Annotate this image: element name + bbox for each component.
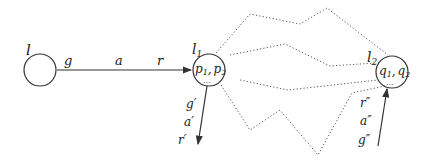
edge-l1-out bbox=[198, 86, 207, 144]
edge-label-a: a bbox=[115, 53, 123, 68]
edge-label-g-prime: g′ bbox=[186, 97, 197, 111]
node-l2-contents: q1,q2 bbox=[379, 64, 410, 79]
node-l-label: l bbox=[26, 41, 31, 59]
edge-in-l2 bbox=[378, 89, 387, 146]
diagram-canvas: l g a r l1 p1,p2 ... g′ a′ r′ l2 q1,q2 .… bbox=[0, 0, 432, 164]
node-l2-label: l2 bbox=[367, 49, 377, 67]
edge-label-a-prime: a′ bbox=[184, 115, 194, 129]
edge-label-r: r bbox=[157, 53, 164, 68]
node-l1-label: l1 bbox=[192, 41, 202, 59]
node-l1-ellipsis: ... bbox=[203, 76, 211, 85]
edge-label-g: g bbox=[64, 53, 72, 68]
edge-label-r-dprime: r″ bbox=[360, 96, 371, 110]
node-l1-contents: p1,p2 bbox=[195, 62, 226, 77]
dotted-path-3 bbox=[240, 80, 378, 90]
node-l2-ellipsis: ... bbox=[386, 78, 394, 87]
edge-label-r-prime: r′ bbox=[178, 133, 187, 147]
dotted-path-1 bbox=[216, 8, 388, 55]
edge-label-a-dprime: a″ bbox=[360, 114, 372, 128]
dotted-path-2 bbox=[230, 44, 376, 66]
edge-label-g-dprime: g″ bbox=[358, 133, 371, 147]
